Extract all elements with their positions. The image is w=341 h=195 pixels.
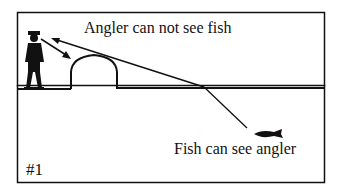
arrowhead-down-icon [62,51,71,59]
figure-number: #1 [26,160,43,180]
sight-line [54,39,204,87]
label-fish-can-see: Fish can see angler [174,140,296,158]
diagram-panel: Angler can not see fish Fish can see ang… [0,0,341,195]
bank-mound [71,55,117,89]
arrowhead-up-icon [51,38,60,44]
label-angler-cannot-see: Angler can not see fish [84,19,232,37]
refracted-line [204,87,247,128]
fish-silhouette-icon [254,129,283,138]
